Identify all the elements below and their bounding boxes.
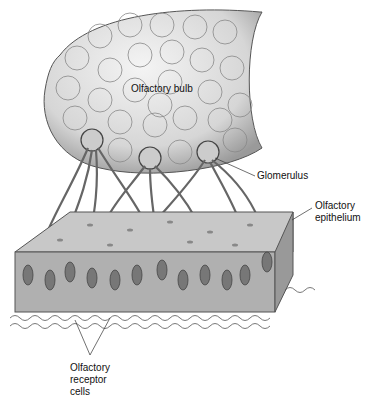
olfactory-diagram: Olfactory bulb Glomerulus Olfactory epit…	[0, 0, 373, 404]
label-olfactory-bulb: Olfactory bulb	[131, 83, 193, 95]
label-glomerulus: Glomerulus	[257, 170, 308, 182]
label-olfactory-receptor-cells: Olfactory receptor cells	[70, 362, 110, 398]
olfactory-epithelium	[15, 212, 293, 312]
label-olfactory-epithelium: Olfactory epithelium	[315, 200, 361, 224]
